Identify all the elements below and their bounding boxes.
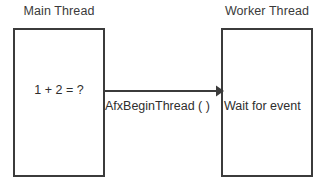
thread-diagram: Main Thread Worker Thread 1 + 2 = ? Wait…: [0, 0, 326, 193]
main-thread-computation-text: 1 + 2 = ?: [13, 82, 105, 98]
column-header-worker-thread: Worker Thread: [221, 3, 313, 19]
column-header-main-thread: Main Thread: [13, 3, 105, 19]
begin-thread-call-label: AfxBeginThread ( ): [105, 98, 210, 114]
main-thread-box: [13, 28, 105, 177]
arrow-head: [216, 86, 224, 97]
worker-thread-wait-text: Wait for event: [224, 98, 301, 114]
